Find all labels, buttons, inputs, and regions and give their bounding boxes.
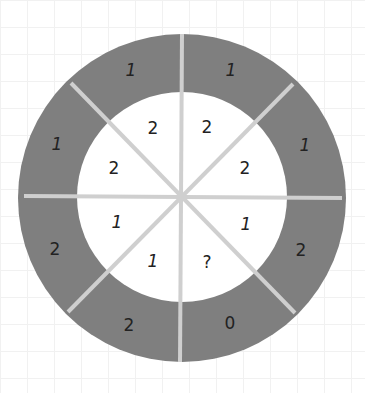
inner-top-left: 2 [148,118,159,138]
inner-top-right: 2 [202,117,213,137]
outer-bottom-left: 2 [124,315,135,335]
outer-top-left: 1 [126,60,137,80]
outer-right-top: 1 [300,135,311,155]
inner-bottom-left: 1 [148,251,159,271]
inner-right-top: 2 [240,158,251,178]
outer-top-right: 1 [226,60,237,80]
inner-right-bottom: 1 [241,214,252,234]
inner-left-top: 2 [109,158,120,178]
inner-left-bottom: 1 [112,212,123,232]
outer-right-bottom: 2 [296,240,307,260]
outer-left-bottom: 2 [50,239,61,259]
outer-bottom-right: 0 [225,313,236,333]
inner-bottom-right-unknown: ? [202,252,211,272]
number-wheel: 1 1 1 2 0 2 2 1 2 2 2 1 ? 1 1 2 [0,0,365,393]
outer-left-top: 1 [52,134,63,154]
